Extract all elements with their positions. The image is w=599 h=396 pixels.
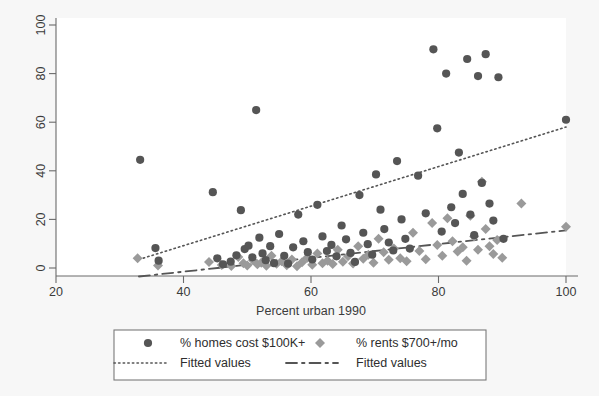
data-point-homes: [463, 55, 471, 63]
x-tick-label: 40: [177, 285, 191, 299]
data-point-homes: [237, 206, 245, 214]
data-point-homes: [429, 45, 437, 53]
data-point-homes: [299, 237, 307, 245]
data-point-homes: [422, 209, 430, 217]
data-point-homes: [136, 156, 144, 164]
data-point-homes: [213, 254, 221, 262]
data-point-homes: [406, 244, 414, 252]
data-point-homes: [466, 210, 474, 218]
data-point-homes: [451, 219, 459, 227]
y-tick-label: 0: [34, 264, 48, 271]
data-point-homes: [489, 217, 497, 225]
data-point-homes: [280, 252, 288, 260]
data-point-homes: [227, 258, 235, 266]
data-point-homes: [327, 241, 335, 249]
x-tick-label: 60: [304, 285, 318, 299]
legend-label: Fitted values: [356, 356, 427, 370]
data-point-homes: [244, 242, 252, 250]
data-point-homes: [478, 179, 486, 187]
data-point-homes: [232, 251, 240, 259]
y-tick-label: 40: [34, 164, 48, 178]
y-tick-label: 20: [34, 212, 48, 226]
data-point-homes: [248, 253, 256, 261]
data-point-homes: [308, 255, 316, 263]
data-point-homes: [364, 240, 372, 248]
y-tick-label: 80: [34, 67, 48, 81]
data-point-homes: [433, 124, 441, 132]
data-point-homes: [318, 232, 326, 240]
data-point-homes: [442, 70, 450, 78]
chart-canvas: 020406080100 20406080100 Percent urban 1…: [0, 0, 599, 396]
data-point-homes: [455, 148, 463, 156]
data-point-homes: [499, 235, 507, 243]
data-point-homes: [470, 231, 478, 239]
data-point-homes: [275, 230, 283, 238]
data-point-homes: [266, 242, 274, 250]
data-point-homes: [414, 172, 422, 180]
legend-circle-marker-icon: [144, 339, 152, 347]
x-tick-label: 100: [556, 285, 577, 299]
data-point-homes: [485, 200, 493, 208]
data-point-homes: [397, 215, 405, 223]
data-point-homes: [494, 73, 502, 81]
x-axis-title: Percent urban 1990: [256, 304, 366, 318]
data-point-homes: [332, 252, 340, 260]
data-point-homes: [342, 235, 350, 243]
data-point-homes: [304, 248, 312, 256]
data-point-homes: [294, 210, 302, 218]
plot-area-background: [56, 18, 566, 276]
data-point-homes: [313, 201, 321, 209]
data-point-homes: [284, 260, 292, 268]
data-point-homes: [474, 72, 482, 80]
legend-label: Fitted values: [180, 356, 251, 370]
data-point-homes: [351, 258, 359, 266]
legend-label: % rents $700+/mo: [356, 336, 458, 350]
y-tick-label: 100: [34, 15, 48, 36]
data-point-homes: [346, 249, 354, 257]
data-point-homes: [385, 238, 393, 246]
y-axis-ticks: 020406080100: [34, 15, 56, 272]
x-tick-label: 20: [49, 285, 63, 299]
legend-label: % homes cost $100K+: [180, 336, 305, 350]
data-point-homes: [401, 235, 409, 243]
data-point-homes: [389, 246, 397, 254]
data-point-homes: [372, 170, 380, 178]
data-point-homes: [252, 106, 260, 114]
data-point-homes: [368, 251, 376, 259]
x-axis-ticks: 20406080100: [49, 276, 576, 299]
data-point-homes: [155, 257, 163, 265]
data-point-homes: [359, 229, 367, 237]
data-point-homes: [219, 260, 227, 268]
data-point-homes: [562, 116, 570, 124]
scatter-plot-figure: 020406080100 20406080100 Percent urban 1…: [0, 0, 599, 396]
y-tick-label: 60: [34, 115, 48, 129]
data-point-homes: [355, 191, 363, 199]
data-point-homes: [338, 221, 346, 229]
data-point-homes: [380, 225, 388, 233]
data-point-homes: [393, 157, 401, 165]
data-point-homes: [438, 227, 446, 235]
data-point-homes: [209, 188, 217, 196]
data-point-homes: [151, 244, 159, 252]
data-point-homes: [482, 50, 490, 58]
data-point-homes: [270, 259, 278, 267]
x-tick-label: 80: [432, 285, 446, 299]
data-point-homes: [447, 203, 455, 211]
data-point-homes: [459, 190, 467, 198]
data-point-homes: [376, 206, 384, 214]
data-point-homes: [262, 256, 270, 264]
data-point-homes: [289, 243, 297, 251]
data-point-homes: [255, 234, 263, 242]
